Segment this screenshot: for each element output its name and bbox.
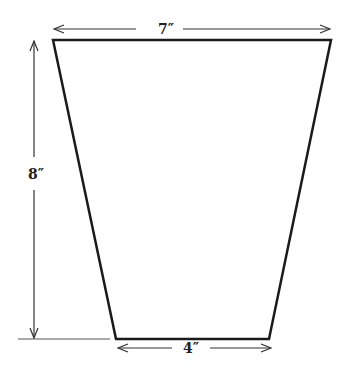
bottom-dimension: 4″ <box>118 340 271 356</box>
bottom-width-label: 4″ <box>183 340 199 356</box>
height-dimension: 8″ <box>18 41 110 339</box>
height-label: 8″ <box>28 166 44 182</box>
top-width-label: 7″ <box>158 21 174 37</box>
trapezoid-shape <box>53 40 331 339</box>
top-dimension: 7″ <box>54 21 330 37</box>
trapezoid-diagram: 7″ 8″ 4″ <box>0 0 352 370</box>
